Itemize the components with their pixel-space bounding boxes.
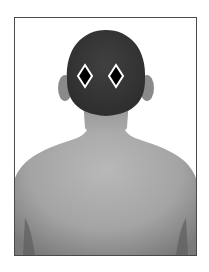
head (67, 30, 145, 116)
head-shoulders-illustration (15, 18, 196, 255)
figure-frame (14, 17, 197, 256)
shoulders (15, 114, 196, 255)
